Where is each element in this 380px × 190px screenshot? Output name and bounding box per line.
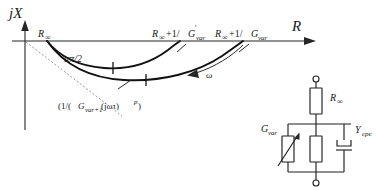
- figure-root: jX R R ∞ απ/2 ω R ∞ +1/ G ' var: [0, 0, 380, 190]
- label-r-inf-sub: ∞: [337, 97, 343, 106]
- label-y-cpe: Y cpe: [355, 124, 372, 138]
- outer-intercept-plus: +1/: [229, 28, 243, 39]
- branch-g-var: [278, 124, 300, 172]
- terminal-bottom: [313, 180, 319, 186]
- y-axis-arrowhead: [21, 20, 29, 31]
- omega-label: ω: [206, 70, 212, 80]
- cpe-formula-label: (1/( G var+1 (jωτ) p ): [58, 98, 141, 114]
- omega-arrow: [187, 45, 243, 78]
- x-axis-label: R: [291, 18, 301, 34]
- cpe-formula-rest: (jωτ): [101, 101, 119, 111]
- resistor-g-var: [282, 136, 294, 162]
- inner-intercept-sub: ∞: [159, 33, 165, 42]
- cpe-formula-gsub: var+1: [85, 106, 103, 114]
- inner-intercept-plus: +1/: [166, 28, 180, 39]
- impedance-figure: jX R R ∞ απ/2 ω R ∞ +1/ G ' var: [0, 0, 380, 190]
- plot-group: jX R R ∞ απ/2 ω R ∞ +1/ G ' var: [7, 5, 316, 130]
- label-y-cpe-main: Y: [355, 124, 362, 135]
- x-axis-arrowhead: [304, 37, 316, 45]
- formula-leader-line: [118, 80, 131, 89]
- inner-intercept-leader: [177, 44, 186, 52]
- resistor-r-inf: [310, 88, 322, 114]
- origin-label-main: R: [37, 28, 44, 39]
- branch-r-mid: [310, 124, 322, 172]
- label-g-var: G var: [261, 123, 278, 137]
- cpe-plate-upper: [337, 140, 351, 146]
- terminal-top: [313, 76, 319, 82]
- origin-intercept-label: R ∞: [37, 28, 51, 42]
- label-r-inf: R ∞: [329, 92, 343, 106]
- y-axis-label: jX: [7, 5, 23, 21]
- inner-intercept-gsub: var: [196, 34, 206, 42]
- outer-intercept-main: R: [214, 28, 221, 39]
- cpe-formula-close: ): [138, 101, 141, 111]
- outer-intercept-sub: ∞: [222, 33, 228, 42]
- inner-intercept-prime: ': [195, 24, 197, 33]
- cpe-formula-g: G: [78, 101, 85, 111]
- y-axis: [21, 20, 29, 130]
- outer-intercept-label: R ∞ +1/ G var: [214, 28, 268, 42]
- label-g-var-sub: var: [268, 129, 278, 137]
- branch-y-cpe: [336, 124, 352, 172]
- variable-arrow-head: [294, 133, 300, 140]
- inner-intercept-main: R: [151, 28, 158, 39]
- circuit-group: R ∞ G var Y cpe: [261, 76, 372, 186]
- label-r-inf-main: R: [329, 92, 336, 103]
- angle-label: απ/2: [64, 53, 82, 64]
- cpe-formula-open: (1/(: [58, 101, 71, 111]
- label-y-cpe-sub: cpe: [362, 130, 372, 138]
- inner-intercept-label: R ∞ +1/ G ' var: [151, 24, 206, 42]
- resistor-r-mid: [310, 136, 322, 162]
- outer-intercept-gsub: var: [258, 34, 268, 42]
- origin-label-sub: ∞: [45, 33, 51, 42]
